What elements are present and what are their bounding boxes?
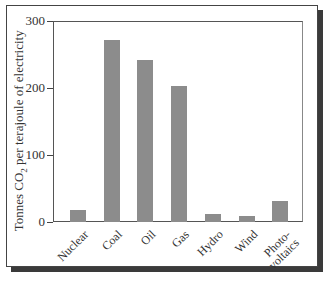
bar-gas: [171, 86, 187, 222]
y-tick: [47, 21, 53, 22]
bar-coal: [104, 40, 120, 222]
bar-oil: [137, 60, 153, 222]
bar-nuclear: [70, 210, 86, 222]
y-tick: [47, 88, 53, 89]
y-tick: [47, 155, 53, 156]
y-tick-label: 300: [26, 14, 46, 27]
bar-hydro: [205, 214, 221, 222]
bar-wind: [239, 216, 255, 222]
y-tick-label: 200: [26, 81, 46, 94]
y-tick: [47, 222, 53, 223]
y-tick-label: 100: [26, 148, 46, 161]
y-tick-label: 0: [39, 215, 46, 228]
bar-photovoltaics: [272, 201, 288, 222]
y-axis-title: Tonnes CO2 per terajoule of electricity: [11, 21, 29, 241]
